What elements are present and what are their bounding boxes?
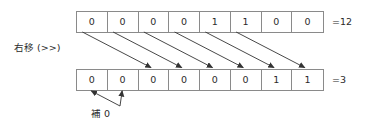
bit-cell: 1 — [200, 12, 231, 32]
bit-cell: 0 — [139, 70, 170, 90]
bit-cell: 0 — [77, 70, 108, 90]
bit-cell: 0 — [169, 12, 200, 32]
top-bit-row: 0 0 0 0 1 1 0 0 — [76, 11, 324, 33]
fill-arrow — [91, 91, 120, 106]
shift-arrow — [113, 32, 182, 68]
bottom-row-value-label: =3 — [332, 75, 346, 85]
bit-cell: 0 — [108, 12, 139, 32]
bit-cell: 1 — [262, 70, 293, 90]
fill-zero-label: 補 0 — [91, 109, 110, 119]
bit-cell: 0 — [139, 12, 170, 32]
bit-cell: 0 — [292, 12, 323, 32]
shift-arrow — [205, 32, 274, 68]
shift-arrows-group — [82, 32, 304, 68]
bit-cell: 0 — [108, 70, 139, 90]
bit-cell: 1 — [231, 12, 262, 32]
fill-arrow — [120, 91, 122, 106]
shift-arrow — [175, 32, 244, 68]
bottom-bit-row: 0 0 0 0 0 0 1 1 — [76, 69, 324, 91]
bit-cell: 0 — [77, 12, 108, 32]
shift-arrow — [236, 32, 305, 68]
shift-arrow — [82, 32, 151, 68]
bit-cell: 1 — [292, 70, 323, 90]
fill-arrows-group — [91, 91, 122, 106]
bit-cell: 0 — [169, 70, 200, 90]
bit-cell: 0 — [231, 70, 262, 90]
bit-shift-diagram: 0 0 0 0 1 1 0 0 =12 0 0 0 0 0 0 1 1 =3 右… — [0, 0, 372, 129]
bit-cell: 0 — [262, 12, 293, 32]
bit-cell: 0 — [200, 70, 231, 90]
shift-operation-label: 右移 (>>) — [14, 43, 60, 53]
top-row-value-label: =12 — [332, 17, 352, 27]
shift-arrow — [144, 32, 213, 68]
